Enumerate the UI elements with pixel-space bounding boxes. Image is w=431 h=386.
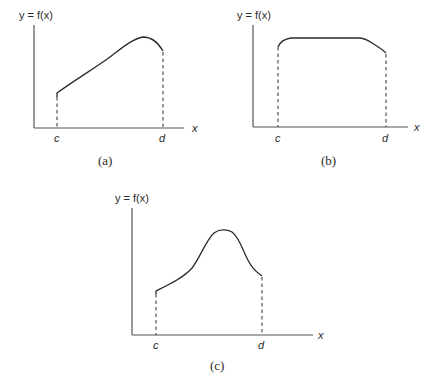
y-axis-label: y = f(x)	[19, 9, 53, 21]
panel-a: y = f(x) x c d (a)	[19, 9, 198, 168]
c-label: c	[275, 132, 281, 144]
function-curve	[156, 230, 262, 294]
c-label: c	[153, 339, 159, 351]
c-label: c	[54, 132, 60, 144]
caption-c: (c)	[210, 358, 224, 373]
d-label: d	[159, 132, 166, 144]
caption-b: (b)	[321, 153, 336, 168]
panel-c: y = f(x) x c d (c)	[115, 192, 324, 373]
function-curve	[278, 38, 386, 53]
x-axis-label: x	[413, 121, 420, 133]
x-axis-label: x	[191, 122, 198, 134]
function-diagrams: y = f(x) x c d (a) y = f(x) x c d (b) y …	[0, 0, 431, 386]
d-label: d	[258, 339, 265, 351]
panel-b: y = f(x) x c d (b)	[237, 9, 420, 168]
y-axis-label: y = f(x)	[237, 9, 271, 21]
function-curve	[57, 37, 163, 97]
caption-a: (a)	[98, 153, 112, 168]
x-axis-label: x	[317, 329, 324, 341]
y-axis-label: y = f(x)	[115, 192, 149, 204]
d-label: d	[382, 132, 389, 144]
